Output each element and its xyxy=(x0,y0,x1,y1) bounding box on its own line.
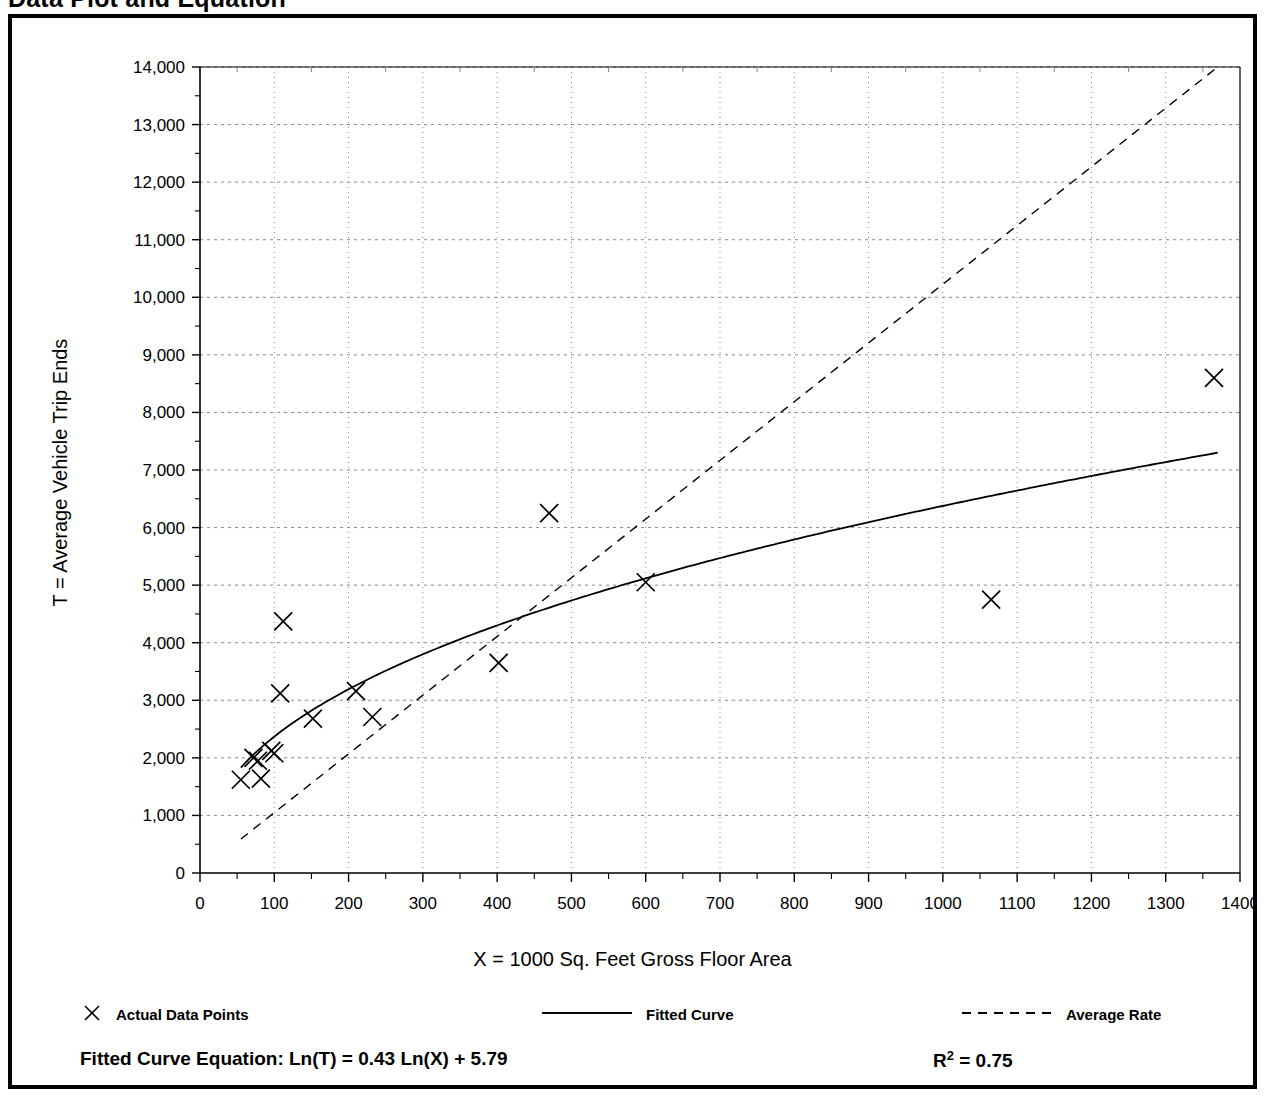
chart-figure: 01,0002,0003,0004,0005,0006,0007,0008,00… xyxy=(12,18,1253,1085)
average-rate-line xyxy=(241,67,1218,839)
r-squared-symbol: R xyxy=(933,1050,947,1071)
y-tick-label: 10,000 xyxy=(133,288,185,307)
data-point-marker xyxy=(274,612,292,630)
x-tick-label: 200 xyxy=(334,894,362,913)
y-tick-label: 1,000 xyxy=(142,806,185,825)
y-tick-label: 6,000 xyxy=(142,519,185,538)
x-tick-label: 700 xyxy=(706,894,734,913)
y-tick-label: 3,000 xyxy=(142,691,185,710)
r-squared-number: = 0.75 xyxy=(959,1050,1012,1071)
data-point-marker xyxy=(637,573,655,591)
chart-legend: Actual Data PointsFitted CurveAverage Ra… xyxy=(12,1003,1253,1033)
y-tick-label: 4,000 xyxy=(142,634,185,653)
y-tick-label: 14,000 xyxy=(133,58,185,77)
legend-label: Fitted Curve xyxy=(646,1006,734,1023)
y-tick-label: 7,000 xyxy=(142,461,185,480)
data-point-marker xyxy=(252,770,270,788)
fitted-curve-equation: Fitted Curve Equation: Ln(T) = 0.43 Ln(X… xyxy=(80,1048,508,1070)
y-tick-label: 2,000 xyxy=(142,749,185,768)
legend-label: Average Rate xyxy=(1066,1006,1161,1023)
data-point-marker xyxy=(1205,369,1223,387)
x-tick-label: 900 xyxy=(854,894,882,913)
data-point-marker xyxy=(232,771,250,789)
x-tick-label: 1100 xyxy=(999,894,1036,913)
fitted-curve-line xyxy=(241,453,1218,768)
page-title: Data Plot and Equation xyxy=(8,0,286,13)
x-tick-label: 1000 xyxy=(924,894,962,913)
x-tick-label: 600 xyxy=(632,894,660,913)
page-root: Data Plot and Equation 01,0002,0003,0004… xyxy=(0,0,1272,1099)
x-tick-label: 800 xyxy=(780,894,808,913)
y-tick-label: 8,000 xyxy=(142,403,185,422)
x-axis-title: X = 1000 Sq. Feet Gross Floor Area xyxy=(12,948,1253,971)
data-point-marker xyxy=(271,684,289,702)
x-tick-label: 1200 xyxy=(1073,894,1111,913)
r-squared-exponent: 2 xyxy=(947,1048,954,1063)
data-point-marker xyxy=(490,654,508,672)
data-point-marker xyxy=(540,504,558,522)
x-tick-label: 400 xyxy=(483,894,511,913)
r-squared-value: R2 = 0.75 xyxy=(933,1048,1013,1072)
legend-item-1: Fitted Curve xyxy=(542,1003,734,1026)
chart-frame: 01,0002,0003,0004,0005,0006,0007,0008,00… xyxy=(8,14,1257,1089)
x-tick-label: 300 xyxy=(409,894,437,913)
x-tick-label: 0 xyxy=(195,894,204,913)
dashed-line-icon xyxy=(962,1003,1052,1026)
legend-label: Actual Data Points xyxy=(116,1006,249,1023)
x-tick-label: 500 xyxy=(557,894,585,913)
x-marker-icon xyxy=(82,1003,102,1026)
y-tick-label: 0 xyxy=(176,864,185,883)
y-tick-label: 12,000 xyxy=(133,173,185,192)
x-tick-label: 1400 xyxy=(1221,894,1253,913)
y-tick-label: 9,000 xyxy=(142,346,185,365)
y-tick-label: 11,000 xyxy=(134,231,185,250)
legend-item-2: Average Rate xyxy=(962,1003,1161,1026)
data-point-marker xyxy=(304,710,322,728)
y-axis-title: T = Average Vehicle Trip Ends xyxy=(49,213,72,733)
solid-line-icon xyxy=(542,1003,632,1026)
y-tick-label: 13,000 xyxy=(133,116,185,135)
data-point-marker xyxy=(982,591,1000,609)
x-tick-label: 1300 xyxy=(1147,894,1185,913)
legend-item-0: Actual Data Points xyxy=(82,1003,249,1026)
equation-row: Fitted Curve Equation: Ln(T) = 0.43 Ln(X… xyxy=(12,1048,1253,1080)
x-tick-label: 100 xyxy=(260,894,288,913)
data-point-marker xyxy=(363,708,381,726)
y-tick-label: 5,000 xyxy=(142,576,185,595)
scatter-plot-canvas: 01,0002,0003,0004,0005,0006,0007,0008,00… xyxy=(12,18,1253,1085)
